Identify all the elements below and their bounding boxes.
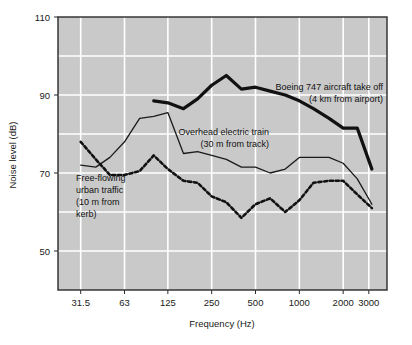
annotation-train-line1: Overhead electric train <box>178 127 269 137</box>
annotation-traffic-line3: (10 m from <box>76 197 120 207</box>
annotation-boeing-line2: (4 km from airport) <box>309 94 383 104</box>
annotation-boeing-line1: Boeing 747 aircraft take off <box>276 82 384 92</box>
x-tick-label: 125 <box>160 297 176 308</box>
annotation-traffic-line1: Free-flowing <box>76 173 126 183</box>
x-tick-label: 3000 <box>358 297 379 308</box>
x-axis-tick-labels: 31.563125250500100020003000 <box>71 290 379 308</box>
x-tick-label: 250 <box>204 297 220 308</box>
y-axis-title: Noise level (dB) <box>7 121 18 188</box>
x-tick-label: 1000 <box>289 297 310 308</box>
annotation-train-line2: (30 m from track) <box>200 139 269 149</box>
y-tick-label: 50 <box>39 246 50 257</box>
chart-svg: 31.563125250500100020003000 507090110 Fr… <box>0 0 412 345</box>
x-tick-label: 31.5 <box>71 297 90 308</box>
plot-area-background <box>58 17 387 290</box>
y-tick-label: 90 <box>39 90 50 101</box>
annotation-traffic-line4: kerb) <box>76 209 97 219</box>
y-tick-label: 110 <box>35 12 50 23</box>
y-tick-label: 70 <box>39 168 50 179</box>
x-tick-label: 2000 <box>333 297 354 308</box>
noise-spectrum-chart: 31.563125250500100020003000 507090110 Fr… <box>0 0 412 345</box>
annotation-traffic-line2: urban traffic <box>76 185 124 195</box>
x-tick-label: 63 <box>119 297 130 308</box>
x-axis-title: Frequency (Hz) <box>189 318 254 329</box>
y-axis-tick-labels: 507090110 <box>35 12 58 257</box>
x-tick-label: 500 <box>248 297 264 308</box>
